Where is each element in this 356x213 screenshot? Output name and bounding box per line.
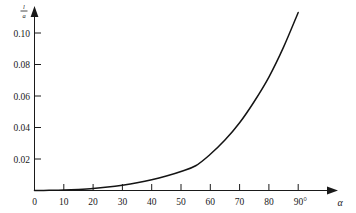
y-axis-label: l a — [21, 3, 28, 19]
y-tick-label-1: 0.04 — [13, 123, 30, 133]
y-axis-label-numerator: l — [23, 3, 25, 10]
plot-canvas: 0.02 0.04 0.06 0.08 0.10 l a 0 10 — [0, 0, 356, 213]
data-curve — [35, 13, 299, 191]
x-tick-label-8: 80 — [264, 197, 274, 207]
x-tick-label-1: 10 — [59, 197, 69, 207]
y-axis-arrowhead — [31, 6, 39, 17]
x-tick-label-5: 50 — [176, 197, 186, 207]
y-axis-label-denominator: a — [22, 12, 25, 19]
y-tick-label-3: 0.08 — [13, 60, 30, 70]
y-axis-ticks — [35, 33, 42, 159]
x-axis — [35, 187, 339, 195]
y-axis-tick-labels: 0.02 0.04 0.06 0.08 0.10 — [13, 29, 30, 165]
y-axis — [31, 6, 39, 191]
x-tick-label-9: 90° — [294, 197, 308, 207]
x-axis-label: α — [337, 197, 343, 208]
x-axis-tick-labels: 0 10 20 30 40 50 60 70 80 90° — [32, 197, 307, 207]
y-tick-label-0: 0.02 — [13, 155, 30, 165]
x-tick-label-6: 60 — [206, 197, 216, 207]
y-tick-label-2: 0.06 — [13, 92, 30, 102]
x-tick-label-0: 0 — [32, 197, 37, 207]
x-tick-label-7: 70 — [235, 197, 245, 207]
x-tick-label-2: 20 — [88, 197, 98, 207]
chart-figure: 0.02 0.04 0.06 0.08 0.10 l a 0 10 — [0, 0, 356, 213]
y-tick-label-4: 0.10 — [13, 29, 30, 39]
x-axis-arrowhead — [327, 187, 338, 195]
x-tick-label-4: 40 — [147, 197, 157, 207]
x-tick-label-3: 30 — [118, 197, 128, 207]
